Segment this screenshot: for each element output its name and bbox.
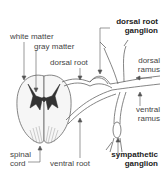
label-sympathetic-ganglion: sympathetic ganglion (111, 150, 158, 168)
spinal-cord-shape (17, 75, 71, 143)
label-line: sympathetic (111, 150, 158, 159)
label-line: ventral (136, 105, 160, 114)
label-line: ganglion (116, 26, 158, 35)
label-line: dorsal root (116, 17, 158, 26)
label-dorsal-root-ganglion: dorsal root ganglion (116, 17, 158, 35)
label-gray-matter: gray matter (34, 42, 74, 51)
label-white-matter: white matter (10, 32, 54, 41)
label-ventral-ramus: ventral ramus (136, 105, 160, 123)
label-ventral-root: ventral root (50, 159, 90, 168)
label-line: dorsal (138, 56, 160, 65)
label-line: ramus (138, 65, 160, 74)
label-line: ramus (136, 114, 160, 123)
label-spinal-cord: spinal cord (10, 150, 31, 168)
label-line: ganglion (111, 159, 158, 168)
label-dorsal-ramus: dorsal ramus (138, 56, 160, 74)
label-dorsal-root: dorsal root (50, 58, 88, 67)
label-line: cord (10, 159, 31, 168)
label-line: spinal (10, 150, 31, 159)
